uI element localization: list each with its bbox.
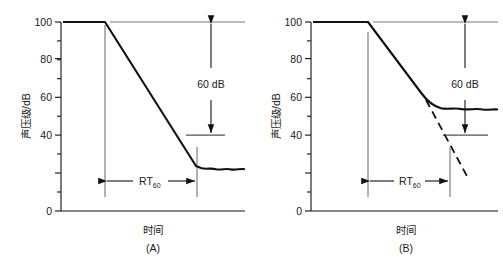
decay-curve: [313, 22, 498, 110]
y-axis-ticks: [55, 22, 61, 211]
panel-a: 100 80 60 40 0 声压级/dB 60 dB: [0, 0, 251, 273]
y-tick-label-40: 40: [40, 129, 52, 141]
panel-b-plot: 100 80 60 40 0 声压级/dB 60 dB: [250, 0, 503, 273]
panel-caption: (A): [146, 242, 160, 254]
rt60-label: RT60: [139, 175, 161, 189]
level-drop-label: 60 dB: [451, 78, 478, 90]
y-axis-title: 声压级/dB: [270, 93, 282, 139]
y-tick-label-80: 80: [40, 53, 52, 65]
y-tick-label-80: 80: [290, 53, 302, 65]
y-tick-label-60: 60: [290, 91, 302, 103]
decay-curve: [63, 22, 245, 170]
y-axis-title: 声压级/dB: [20, 93, 32, 139]
y-tick-label-60: 60: [40, 91, 52, 103]
x-axis-title: 时间: [396, 224, 416, 236]
figure-container: 100 80 60 40 0 声压级/dB 60 dB: [0, 0, 503, 273]
panel-a-plot: 100 80 60 40 0 声压级/dB 60 dB: [0, 0, 251, 273]
panel-caption: (B): [399, 242, 413, 254]
y-tick-label-100: 100: [284, 16, 302, 28]
rt60-label: RT60: [399, 175, 421, 189]
y-tick-label-100: 100: [34, 16, 52, 28]
panel-b: 100 80 60 40 0 声压级/dB 60 dB: [250, 0, 501, 273]
level-drop-label: 60 dB: [197, 78, 224, 90]
y-tick-label-40: 40: [290, 129, 302, 141]
x-axis-title: 时间: [143, 224, 163, 236]
extrapolated-decay-line: [426, 100, 468, 178]
y-axis-ticks: [305, 22, 311, 211]
y-tick-label-0: 0: [296, 205, 302, 217]
y-tick-label-0: 0: [46, 205, 52, 217]
